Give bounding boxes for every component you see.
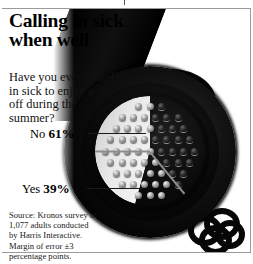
source-line: percentage points. [9,251,121,261]
pie-label-no: No 61% [30,126,75,142]
infographic-panel: Calling in sick when well Have you ever … [0,0,253,264]
leader-line-yes [87,188,143,189]
source-line: by Harris Interactive. [9,230,121,240]
source-line: Source: Kronos survey of [9,210,121,220]
page-title: Calling in sick when well [9,12,127,49]
source-line: Margin of error ±3 [9,241,121,251]
pie-label-no-text: No [30,127,45,141]
source-credit: Source: Kronos survey of 1,077 adults co… [9,210,121,261]
leader-line-no [88,133,146,134]
source-line: 1,077 adults conducted [9,220,121,230]
pie-label-yes-value: 39% [43,181,69,196]
survey-question: Have you ever called in sick to enjoy a … [9,71,119,125]
pie-label-yes-text: Yes [22,182,40,196]
text-layer: Calling in sick when well Have you ever … [0,0,253,264]
pie-label-yes: Yes 39% [22,181,70,197]
pie-label-no-value: 61% [48,126,74,141]
